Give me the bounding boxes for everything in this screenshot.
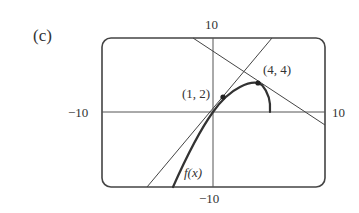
function-label: f(x) — [184, 166, 202, 179]
x-max-label: 10 — [332, 106, 345, 119]
point-b-marker — [255, 80, 260, 85]
x-min-label: −10 — [68, 106, 88, 119]
point-a-label: (1, 2) — [182, 87, 210, 100]
y-max-label: 10 — [205, 18, 218, 31]
y-min-label: −10 — [199, 192, 219, 205]
point-a-marker — [220, 94, 225, 99]
graph-canvas — [0, 0, 359, 213]
point-b-label: (4, 4) — [263, 63, 291, 76]
